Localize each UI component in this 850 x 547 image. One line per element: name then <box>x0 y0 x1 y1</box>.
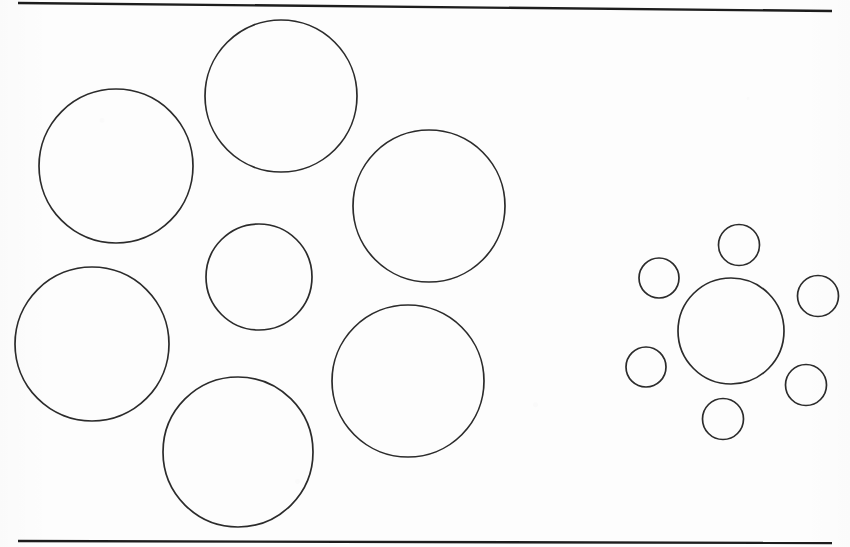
figure-background <box>0 0 850 547</box>
illusion-figure-svg <box>0 0 850 547</box>
figure-page <box>0 0 850 547</box>
